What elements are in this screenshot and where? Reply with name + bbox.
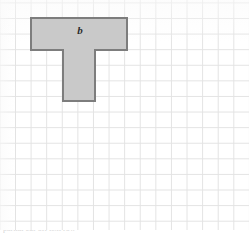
t-shape-figure — [0, 0, 249, 239]
figure-page: b partial cut-off text row — [0, 0, 249, 239]
figure-layer: b — [0, 0, 249, 239]
bottom-caption-strip: partial cut-off text row — [0, 230, 249, 239]
shape-label-b: b — [71, 24, 89, 36]
bottom-caption-text: partial cut-off text row — [3, 230, 76, 233]
